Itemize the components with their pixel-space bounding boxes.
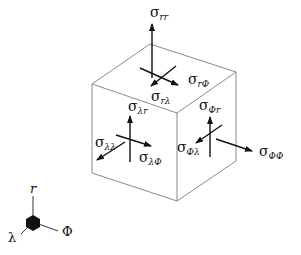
label-sigma-lambdalambda: σλλ bbox=[95, 134, 116, 152]
axis-label-lambda: λ bbox=[8, 230, 16, 245]
label-sigma-phiphi: σΦΦ bbox=[259, 143, 283, 161]
label-sigma-lambdar: σλr bbox=[128, 98, 148, 116]
axis-label-r: r bbox=[30, 181, 37, 196]
label-sigma-lambdaphi: σλΦ bbox=[139, 149, 162, 167]
coordinate-triad: r λ Φ bbox=[8, 181, 73, 245]
label-sigma-philambda: σΦλ bbox=[177, 139, 200, 157]
origin-cube-icon bbox=[26, 215, 40, 231]
axis-label-phi: Φ bbox=[62, 224, 73, 239]
label-sigma-rr: σrr bbox=[150, 4, 169, 22]
top-face-arrows bbox=[140, 24, 178, 86]
label-sigma-phir: σΦr bbox=[199, 97, 221, 115]
phi-face-arrows bbox=[196, 117, 252, 157]
label-sigma-rlambda: σrλ bbox=[151, 88, 171, 106]
stress-cube-diagram: σrr σrΦ σrλ σλr σλλ σλΦ σΦr σΦλ σΦΦ r λ … bbox=[0, 0, 301, 255]
cube bbox=[92, 44, 236, 201]
label-sigma-rphi: σrΦ bbox=[188, 71, 209, 89]
